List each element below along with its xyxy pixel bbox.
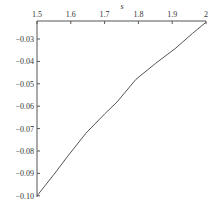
x-tick-label: 1.9 [167,10,177,19]
y-axis-ticks: −0.03−0.04−0.05−0.06−0.07−0.08−0.09−0.10 [15,35,40,201]
x-tick-label: 1.6 [66,10,76,19]
y-tick-label: −0.06 [15,102,34,111]
x-axis-title: s [120,2,123,11]
y-tick-label: −0.07 [15,125,34,134]
x-tick-label: 1.8 [133,10,143,19]
y-tick-label: −0.03 [15,35,34,44]
y-tick-label: −0.09 [15,169,34,178]
x-tick-label: 2 [204,10,208,19]
y-tick-label: −0.05 [15,80,34,89]
x-axis-ticks: 1.51.61.71.81.92 [32,10,208,24]
y-tick-label: −0.10 [15,192,34,201]
y-tick-label: −0.08 [15,147,34,156]
y-tick-label: −0.04 [15,57,34,66]
x-tick-label: 1.7 [100,10,110,19]
data-curve [37,22,206,196]
x-tick-label: 1.5 [32,10,42,19]
line-chart: s 1.51.61.71.81.92 −0.03−0.04−0.05−0.06−… [0,0,222,215]
